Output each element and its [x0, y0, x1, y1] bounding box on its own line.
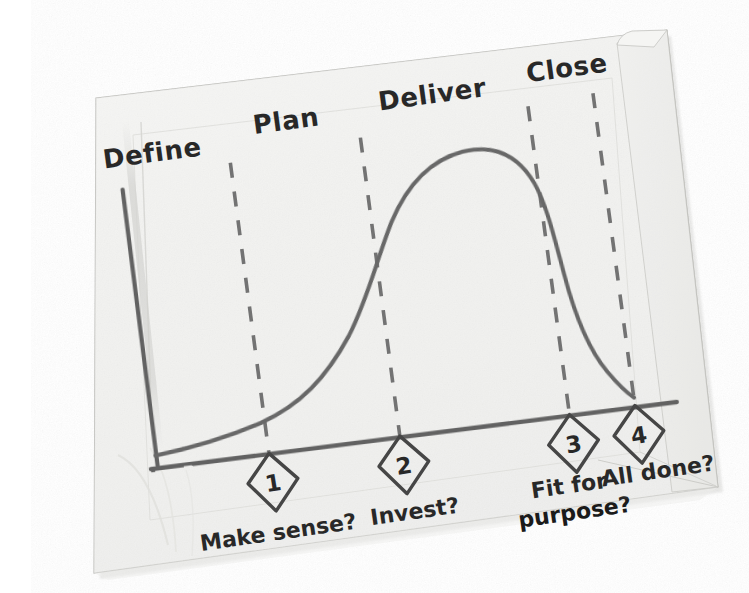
sketch-canvas: 1 2 3 4 Define Plan Deliver Close Make s…: [0, 0, 749, 593]
envelope-sketch-figure: 1 2 3 4 Define Plan Deliver Close Make s…: [0, 0, 749, 593]
